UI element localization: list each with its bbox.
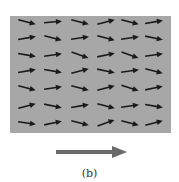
vector-field-panel — [10, 16, 171, 133]
net-direction-arrow-icon — [55, 146, 130, 158]
figure-caption: (b) — [0, 167, 179, 180]
